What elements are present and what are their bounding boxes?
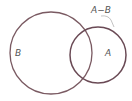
- circle-a: [70, 27, 126, 83]
- callout-leader: [101, 16, 114, 27]
- venn-diagram: A−B B A: [0, 0, 132, 101]
- label-a-minus-b: A−B: [90, 5, 111, 15]
- label-b: B: [15, 48, 21, 58]
- label-a: A: [104, 48, 111, 58]
- circle-b: [10, 12, 92, 94]
